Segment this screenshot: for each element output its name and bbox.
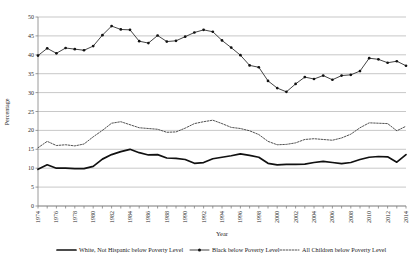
data-point xyxy=(193,31,196,34)
x-tick-label-2000: 2000 xyxy=(274,211,280,223)
x-tick-label-2010: 2010 xyxy=(366,211,372,223)
series-line-all-children-below-poverty-level xyxy=(38,120,406,148)
data-point xyxy=(138,40,141,43)
x-tick-label-2012: 2012 xyxy=(385,211,391,223)
data-point xyxy=(349,73,352,76)
y-tick-label-5: 5 xyxy=(31,184,34,190)
y-tick-label-35: 35 xyxy=(28,71,34,77)
data-point xyxy=(331,78,334,81)
poverty-rate-line-chart: 05101520253035404550 1974197619781980198… xyxy=(0,0,419,268)
data-point xyxy=(368,57,371,60)
data-point xyxy=(359,70,362,73)
data-point xyxy=(55,52,58,55)
y-tick-label-0: 0 xyxy=(31,203,34,209)
data-point xyxy=(92,45,95,48)
data-point xyxy=(405,64,408,67)
data-point xyxy=(83,49,86,52)
y-tick-label-40: 40 xyxy=(28,52,34,58)
data-point xyxy=(73,48,76,51)
data-point xyxy=(294,83,297,86)
data-point xyxy=(340,74,343,77)
data-point xyxy=(248,64,251,67)
data-point xyxy=(64,47,67,50)
x-tick-label-1982: 1982 xyxy=(109,211,115,223)
y-tick-label-20: 20 xyxy=(28,127,34,133)
x-tick-label-2014: 2014 xyxy=(403,211,409,223)
data-point xyxy=(221,39,224,42)
x-tick-label-1990: 1990 xyxy=(182,211,188,223)
data-point xyxy=(202,29,205,32)
data-point xyxy=(239,54,242,57)
data-point xyxy=(119,28,122,31)
data-series-group xyxy=(37,25,408,170)
y-tick-label-30: 30 xyxy=(28,90,34,96)
series-markers-black-below-poverty-level xyxy=(37,25,408,93)
data-point xyxy=(211,30,214,33)
x-tick-label-2004: 2004 xyxy=(311,211,317,223)
x-tick-label-1996: 1996 xyxy=(237,211,243,223)
legend-label-all-children-below-poverty-level: All Children below Poverty Level xyxy=(302,246,386,253)
legend-item-white-not-hispanic-below-poverty-level: White, Not Hispanic below Poverty Level xyxy=(57,246,183,253)
data-point xyxy=(257,66,260,69)
chart-legend: White, Not Hispanic below Poverty LevelB… xyxy=(57,246,386,253)
data-point xyxy=(285,90,288,93)
y-axis-title: Percentage xyxy=(3,98,10,125)
y-tick-label-25: 25 xyxy=(28,109,34,115)
data-point xyxy=(276,87,279,90)
x-tick-label-1986: 1986 xyxy=(145,211,151,223)
data-point xyxy=(165,40,168,43)
x-tick-label-1980: 1980 xyxy=(90,211,96,223)
y-tick-label-45: 45 xyxy=(28,33,34,39)
y-tick-label-50: 50 xyxy=(28,14,34,20)
data-point xyxy=(395,60,398,63)
x-tick-label-1976: 1976 xyxy=(53,211,59,223)
data-point xyxy=(101,34,104,37)
y-axis-ticks: 05101520253035404550 xyxy=(28,14,38,209)
data-point xyxy=(322,74,325,77)
data-point xyxy=(377,58,380,61)
data-point xyxy=(386,61,389,64)
x-tick-label-2008: 2008 xyxy=(348,211,354,223)
data-point xyxy=(184,35,187,38)
data-point xyxy=(129,29,132,32)
y-tick-label-10: 10 xyxy=(28,165,34,171)
legend-marker-dot xyxy=(198,249,201,252)
x-tick-label-2002: 2002 xyxy=(293,211,299,223)
data-point xyxy=(147,42,150,45)
data-point xyxy=(37,54,40,57)
legend-item-all-children-below-poverty-level: All Children below Poverty Level xyxy=(280,246,386,253)
x-tick-label-1992: 1992 xyxy=(201,211,207,223)
x-tick-label-1988: 1988 xyxy=(164,211,170,223)
y-tick-label-15: 15 xyxy=(28,146,34,152)
x-tick-label-1994: 1994 xyxy=(219,211,225,223)
x-tick-label-1978: 1978 xyxy=(72,211,78,223)
legend-label-black-below-poverty-level: Black below Poverty Level xyxy=(212,246,280,253)
data-point xyxy=(156,34,159,37)
legend-label-white-not-hispanic-below-poverty-level: White, Not Hispanic below Poverty Level xyxy=(79,246,183,253)
data-point xyxy=(230,46,233,49)
x-axis-ticks: 1974197619781980198219841986198819901992… xyxy=(35,206,409,223)
data-point xyxy=(110,25,113,28)
x-tick-label-1974: 1974 xyxy=(35,211,41,223)
data-point xyxy=(46,47,49,50)
x-tick-label-1998: 1998 xyxy=(256,211,262,223)
series-line-white-not-hispanic-below-poverty-level xyxy=(38,149,406,169)
data-point xyxy=(313,78,316,81)
legend-item-black-below-poverty-level: Black below Poverty Level xyxy=(190,246,280,253)
data-point xyxy=(175,39,178,42)
x-axis-title: Year xyxy=(216,230,229,237)
data-point xyxy=(267,80,270,83)
x-tick-label-1984: 1984 xyxy=(127,211,133,223)
data-point xyxy=(303,76,306,79)
x-tick-label-2006: 2006 xyxy=(329,211,335,223)
chart-canvas: 05101520253035404550 1974197619781980198… xyxy=(0,0,419,268)
